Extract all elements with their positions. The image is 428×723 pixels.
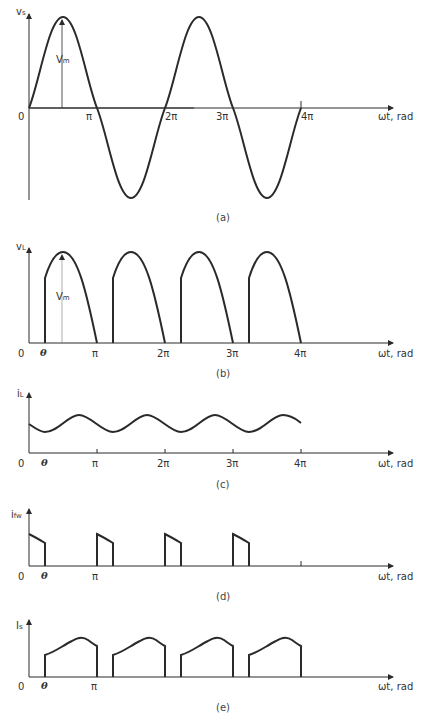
panel-d-freewheel-current <box>29 534 249 566</box>
panel-c-plot <box>29 393 393 453</box>
panel-c-y-label: iL <box>17 389 24 399</box>
panel-a-x-label: ωt, rad <box>378 112 413 122</box>
panel-a-tick-pi: π <box>86 112 92 122</box>
panel-a-plot <box>29 14 393 200</box>
panel-c-theta-label: θ <box>41 458 48 468</box>
panel-a-y-label: vs <box>16 7 26 17</box>
panel-e-origin-label: 0 <box>18 682 24 692</box>
panel-d-caption: (d) <box>216 592 230 602</box>
panel-d-origin-label: 0 <box>18 572 24 582</box>
panel-e-theta-label: θ <box>41 681 48 691</box>
panel-b-vm-label: Vm <box>56 292 70 302</box>
panel-c-tick-4pi: 4π <box>294 459 306 469</box>
panel-b-tick-3pi: 3π <box>226 349 238 359</box>
panel-c-x-label: ωt, rad <box>378 459 413 469</box>
panel-d-x-label: ωt, rad <box>378 572 413 582</box>
panel-b-origin-label: 0 <box>18 349 24 359</box>
panel-d-theta-label: θ <box>41 571 48 581</box>
panel-c-load-current <box>29 415 301 432</box>
panel-c-tick-pi: π <box>92 459 98 469</box>
panel-e-x-label: ωt, rad <box>378 682 413 692</box>
panel-a-origin-label: 0 <box>18 112 24 122</box>
panel-a-caption: (a) <box>216 213 230 223</box>
panel-a-tick-4pi: 4π <box>301 112 313 122</box>
panel-b-caption: (b) <box>216 369 230 379</box>
panel-a-tick-3pi: 3π <box>216 112 228 122</box>
panel-e-plot <box>29 620 393 677</box>
panel-e-caption: (e) <box>216 703 230 713</box>
panel-a-tick-2pi: 2π <box>165 112 177 122</box>
panel-c-tick-2pi: 2π <box>157 459 169 469</box>
waveform-diagram <box>0 0 428 723</box>
panel-d-y-label: ifw <box>11 510 22 520</box>
panel-b-y-label: vL <box>16 242 26 252</box>
panel-c-caption: (c) <box>216 480 229 490</box>
panel-c-tick-3pi: 3π <box>226 459 238 469</box>
panel-b-tick-pi: π <box>92 349 98 359</box>
panel-c-origin-label: 0 <box>18 459 24 469</box>
panel-b-tick-4pi: 4π <box>294 349 306 359</box>
panel-b-theta-label: θ <box>40 348 47 358</box>
panel-b-load-voltage <box>45 252 301 343</box>
panel-b-x-label: ωt, rad <box>378 349 413 359</box>
panel-d-tick-pi: π <box>92 572 98 582</box>
panel-e-y-label: Is <box>16 621 23 631</box>
panel-e-supply-current <box>45 638 301 677</box>
panel-b-plot <box>29 248 393 343</box>
panel-a-vm-label: Vm <box>56 55 70 65</box>
panel-d-plot <box>29 509 393 566</box>
panel-e-tick-pi: π <box>91 682 97 692</box>
panel-b-tick-2pi: 2π <box>157 349 169 359</box>
